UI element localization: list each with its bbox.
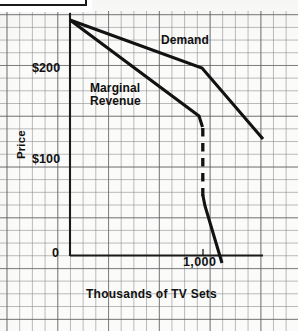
marginal-revenue-lower-segment [203,195,222,263]
y-axis-title: Price [15,130,27,159]
demand-curve-label: Demand [161,34,209,47]
figure-page: $200 $100 0 1,000 Price Demand Marginal … [0,0,298,331]
y-tick-label-0: 0 [52,247,59,261]
marginal-revenue-label: Marginal Revenue [90,82,141,108]
ghost-header-text [96,0,298,11]
y-tick-label-100: $100 [32,153,60,167]
x-axis-title: Thousands of TV Sets [86,288,217,301]
marginal-revenue-label-line1: Marginal [90,82,141,95]
marginal-revenue-label-line2: Revenue [90,95,141,108]
masthead-box [0,0,87,6]
y-tick-label-200: $200 [32,62,60,76]
x-tick-label-1000: 1,000 [183,256,216,270]
